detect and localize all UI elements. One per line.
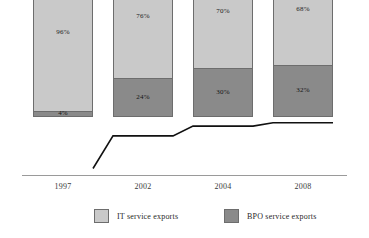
bar-group[interactable]: 76% 24%	[113, 0, 173, 117]
legend-item-it-service-exports[interactable]: IT service exports	[94, 209, 178, 223]
bar-segment-label-it: 96%	[56, 29, 69, 36]
bar-group[interactable]: 70% 30%	[193, 0, 253, 117]
bar-segment-bpo[interactable]: 24%	[113, 78, 173, 117]
bar-segment-label-it: 76%	[136, 13, 149, 20]
bar-segment-it[interactable]: 96%	[33, 0, 93, 111]
plot-area: 96% 4% 76% 24% 70% 30%	[0, 0, 369, 180]
bar-segment-label-it: 68%	[296, 6, 309, 13]
axis-tick-label: 2002	[113, 182, 173, 191]
bar-segment-it[interactable]: 76%	[113, 0, 173, 78]
bar-segment-label-bpo: 24%	[136, 94, 149, 101]
stacked-bar-chart: 96% 4% 76% 24% 70% 30%	[0, 0, 369, 238]
legend-swatch-icon	[224, 209, 239, 223]
bar-segment-it[interactable]: 68%	[273, 0, 333, 65]
bar-segment-label-it: 70%	[216, 8, 229, 15]
legend-item-label: IT service exports	[117, 212, 178, 221]
bar-segment-label-bpo: 30%	[216, 89, 229, 96]
axis-tick-label: 2004	[193, 182, 253, 191]
bar-group[interactable]: 68% 32%	[273, 0, 333, 117]
bar-segment-bpo[interactable]: 4%	[33, 111, 93, 118]
axis-tick-label: 2008	[273, 182, 333, 191]
bar-segment-label-bpo: 4%	[58, 110, 68, 117]
chart-legend: IT service exports BPO service exports	[0, 206, 369, 232]
bar-group[interactable]: 96% 4%	[33, 0, 93, 117]
legend-swatch-icon	[94, 209, 109, 223]
bar-segment-it[interactable]: 70%	[193, 0, 253, 68]
legend-item-bpo-service-exports[interactable]: BPO service exports	[224, 209, 317, 223]
axis-baseline	[22, 175, 347, 176]
bar-segment-label-bpo: 32%	[296, 87, 309, 94]
bar-segment-bpo[interactable]: 30%	[193, 68, 253, 117]
axis-tick-label: 1997	[33, 182, 93, 191]
bar-segment-bpo[interactable]: 32%	[273, 65, 333, 117]
legend-item-label: BPO service exports	[247, 212, 317, 221]
